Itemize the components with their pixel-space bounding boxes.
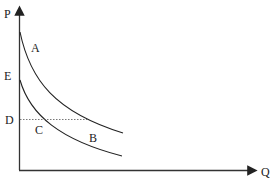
curve-b [20,80,122,156]
point-d-label: D [5,113,14,127]
y-axis-label: P [4,7,11,21]
indifference-curve-diagram: P Q E D C A B [0,0,274,191]
diagram-canvas: P Q E D C A B [0,0,274,191]
curve-b-label: B [89,131,97,145]
x-axis-label: Q [261,165,270,179]
point-e-label: E [4,69,11,83]
point-c-label: C [35,123,43,137]
curve-a-label: A [31,41,40,55]
